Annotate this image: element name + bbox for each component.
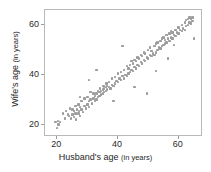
data-point (114, 82, 116, 84)
data-point (57, 123, 59, 125)
data-point (155, 51, 157, 53)
data-point (80, 100, 82, 102)
data-point (190, 22, 192, 24)
data-point (111, 77, 113, 79)
data-point (95, 98, 97, 100)
data-point (149, 46, 151, 48)
data-point (141, 62, 143, 64)
x-tick-label: 20 (51, 139, 61, 149)
scatter-plot-figure: 204060204060 Husband's age (in years) Wi… (0, 0, 211, 172)
y-tick-label: 20 (29, 119, 39, 129)
data-point (123, 69, 125, 71)
data-point (138, 65, 140, 67)
data-point (181, 24, 183, 26)
data-point (120, 71, 122, 73)
data-point (146, 92, 148, 94)
data-point (168, 32, 170, 34)
data-points-layer (45, 10, 201, 135)
data-point (95, 92, 97, 94)
data-point (86, 96, 88, 98)
data-point (129, 64, 131, 66)
data-point (62, 112, 64, 114)
data-point (112, 85, 114, 87)
data-point (173, 44, 175, 46)
y-axis-label-main: Wife's age (10, 65, 20, 107)
data-point (159, 47, 161, 49)
data-point (91, 102, 93, 104)
data-point (117, 72, 119, 74)
y-tick (41, 24, 44, 25)
data-point (138, 57, 140, 59)
y-axis-label: Wife's age (in years) (10, 4, 20, 134)
data-point (64, 117, 66, 119)
x-axis-label-unit: (in years) (121, 153, 152, 162)
data-point (132, 62, 134, 64)
x-axis-label: Husband's age (in years) (0, 152, 211, 162)
data-point (165, 41, 167, 43)
data-point (147, 49, 149, 51)
data-point (114, 76, 116, 78)
data-point (171, 37, 173, 39)
data-point (75, 118, 77, 120)
data-point (126, 75, 128, 77)
data-point (153, 54, 155, 56)
data-point (153, 45, 155, 47)
data-point (132, 70, 134, 72)
y-tick-label: 40 (29, 69, 39, 79)
x-tick-label: 40 (112, 139, 122, 149)
data-point (184, 29, 186, 31)
data-point (79, 115, 81, 117)
data-point (117, 81, 119, 83)
data-point (181, 30, 183, 32)
data-point (184, 21, 186, 23)
data-point (127, 67, 129, 69)
data-point (123, 77, 125, 79)
data-point (133, 86, 135, 88)
y-tick (41, 124, 44, 125)
data-point (109, 87, 111, 89)
data-point (135, 60, 137, 62)
data-point (156, 41, 158, 43)
data-point (177, 32, 179, 34)
data-point (167, 57, 169, 59)
data-point (85, 107, 87, 109)
data-point (94, 95, 96, 97)
y-tick (41, 74, 44, 75)
data-point (88, 106, 90, 108)
data-point (135, 67, 137, 69)
data-point (74, 105, 76, 107)
data-point (120, 79, 122, 81)
data-point (121, 45, 123, 47)
data-point (144, 52, 146, 54)
data-point (150, 55, 152, 57)
data-point (89, 98, 91, 100)
data-point (89, 91, 91, 93)
plot-area (44, 9, 202, 136)
data-point (79, 96, 81, 98)
x-tick-label: 60 (173, 139, 183, 149)
data-point (174, 35, 176, 37)
data-point (141, 55, 143, 57)
data-point (106, 88, 108, 90)
data-point (82, 111, 84, 113)
y-axis-label-unit: (in years) (11, 31, 20, 62)
data-point (191, 16, 193, 18)
data-point (144, 60, 146, 62)
data-point (159, 40, 161, 42)
data-point (56, 127, 58, 129)
data-point (112, 100, 114, 102)
data-point (59, 121, 61, 123)
data-point (65, 110, 67, 112)
data-point (165, 34, 167, 36)
data-point (193, 37, 195, 39)
data-point (70, 117, 72, 119)
data-point (147, 57, 149, 59)
y-tick-label: 60 (29, 19, 39, 29)
data-point (156, 49, 158, 51)
data-point (83, 97, 85, 99)
data-point (108, 81, 110, 83)
x-axis-label-main: Husband's age (59, 152, 119, 162)
data-point (74, 112, 76, 114)
data-point (88, 79, 90, 81)
data-point (168, 40, 170, 42)
